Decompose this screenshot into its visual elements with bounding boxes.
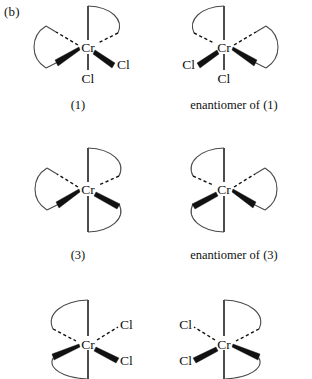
bond-dashed-chloride-upper-left xyxy=(194,327,215,340)
structure-3-enantiomer-caption: enantiomer of (3) xyxy=(156,248,312,263)
structure-3-drawing: Cr xyxy=(0,140,156,250)
bond-wedge-lower-left xyxy=(52,344,80,360)
chelate-arc-right-bottom-stub xyxy=(254,62,266,68)
structure-3-enantiomer-drawing: Cr xyxy=(156,140,312,250)
chelate-arc-right-top-stub xyxy=(255,168,265,174)
structure-1-enantiomer-caption: enantiomer of (1) xyxy=(156,98,312,113)
metal-label: Cr xyxy=(217,337,231,352)
metal-label: Cr xyxy=(81,40,95,55)
chelate-arc-upper-right xyxy=(88,6,120,33)
bond-wedge-left xyxy=(56,189,80,208)
chelate-arc-left xyxy=(35,168,47,210)
bond-wedge-lower-left xyxy=(192,192,218,209)
bond-dashed-upper-right xyxy=(236,329,259,341)
chloride-label-bottom: Cl xyxy=(82,71,95,86)
bond-wedge-chloride-lower-right xyxy=(94,347,119,363)
structure-1-caption: (1) xyxy=(0,98,156,113)
structure-bottom-right-drawing: Cr Cl Cl xyxy=(156,296,312,379)
metal-label: Cr xyxy=(81,182,95,197)
chloride-label-right: Cl xyxy=(117,57,130,72)
chloride-label-upper-left: Cl xyxy=(179,317,192,332)
chloride-label-lower-left: Cl xyxy=(179,353,192,368)
bond-dashed-upper-left xyxy=(194,33,214,43)
chloride-label-left: Cl xyxy=(182,57,195,72)
bond-wedge-chloride-left xyxy=(197,50,219,68)
structure-bottom-left-drawing: Cr Cl Cl xyxy=(0,296,156,379)
bond-wedge-left xyxy=(55,47,80,66)
structure-3-caption: (3) xyxy=(0,248,156,263)
chelate-arc-left-bottom-stub xyxy=(47,204,59,210)
bond-dashed-left xyxy=(57,174,78,187)
chelate-arc-upper-left xyxy=(191,148,224,176)
bond-wedge-chloride-lower-left xyxy=(193,347,218,363)
bond-dashed-left xyxy=(56,32,78,45)
chelate-arc-left-top-stub xyxy=(47,168,57,174)
chloride-label-upper-right: Cl xyxy=(120,317,133,332)
chelate-arc-lower-left xyxy=(52,358,88,379)
bond-dashed-right xyxy=(234,174,255,187)
chelate-arc-right-top-stub xyxy=(256,26,266,32)
chelate-arc-upper-right xyxy=(88,148,121,176)
chelate-arc-left-bottom-stub xyxy=(46,62,58,68)
bond-dashed-upper-right xyxy=(98,33,118,43)
structure-1-drawing: Cr Cl Cl xyxy=(0,0,156,100)
chelate-arc-upper-left xyxy=(192,6,224,33)
bond-dashed-upper-left xyxy=(193,176,213,185)
bond-wedge-lower-right xyxy=(232,344,260,360)
metal-label: Cr xyxy=(81,337,95,352)
bond-dashed-chloride-upper-right xyxy=(97,327,118,340)
bond-dashed-upper-left xyxy=(53,329,76,341)
bond-dashed-right xyxy=(234,32,256,45)
figure-sheet: (b) Cr Cl Cl (1) xyxy=(0,0,312,379)
metal-label: Cr xyxy=(217,40,231,55)
bond-wedge-chloride-right xyxy=(93,50,115,68)
chelate-arc-left-top-stub xyxy=(46,26,56,32)
chelate-arc-right xyxy=(265,168,277,210)
chelate-arc-upper-right xyxy=(224,300,261,329)
chloride-label-bottom: Cl xyxy=(218,71,231,86)
chelate-arc-lower-right xyxy=(224,358,260,379)
chelate-arc-right xyxy=(266,26,278,68)
chelate-arc-right-bottom-stub xyxy=(253,204,265,210)
chelate-arc-upper-left xyxy=(51,300,88,329)
metal-label: Cr xyxy=(217,182,231,197)
bond-wedge-lower-right xyxy=(94,192,120,209)
bond-wedge-right xyxy=(232,189,256,208)
structure-1-enantiomer-drawing: Cr Cl Cl xyxy=(156,0,312,100)
bond-dashed-upper-right xyxy=(99,176,119,185)
chloride-label-lower-right: Cl xyxy=(120,353,133,368)
bond-wedge-right xyxy=(232,47,257,66)
chelate-arc-left xyxy=(34,26,46,68)
